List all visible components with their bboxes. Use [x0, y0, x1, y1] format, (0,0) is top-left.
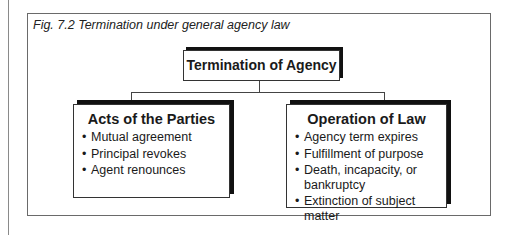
connector-left-down: [131, 92, 132, 102]
branch-acts-of-the-parties: Acts of the Parties •Mutual agreement •P…: [73, 104, 230, 198]
branch-item-list: •Mutual agreement •Principal revokes •Ag…: [74, 130, 229, 178]
list-item-text: Mutual agreement: [91, 130, 192, 144]
list-item: •Mutual agreement: [82, 130, 229, 145]
list-item: •Principal revokes: [82, 147, 229, 162]
list-item: •Fulfillment of purpose: [295, 147, 446, 162]
bullet-icon: •: [295, 147, 299, 162]
branch-item-list: •Agency term expires •Fulfillment of pur…: [287, 130, 446, 223]
root-node-termination-of-agency: Termination of Agency: [183, 50, 340, 81]
list-item-text: Agency term expires: [304, 130, 418, 144]
bullet-icon: •: [295, 130, 299, 145]
figure-caption: Fig. 7.2 Termination under general agenc…: [33, 18, 290, 32]
list-item: •Agency term expires: [295, 130, 446, 145]
connector-horizontal: [131, 92, 384, 93]
bullet-icon: •: [295, 163, 299, 178]
bullet-icon: •: [82, 163, 86, 178]
list-item-text: Extinction of subject matter: [304, 194, 415, 223]
bullet-icon: •: [82, 147, 86, 162]
list-item-text: Principal revokes: [91, 147, 186, 161]
bullet-icon: •: [82, 130, 86, 145]
branch-title: Operation of Law: [287, 111, 446, 127]
list-item: •Extinction of subject matter: [295, 194, 446, 223]
bullet-icon: •: [295, 194, 299, 209]
branch-operation-of-law: Operation of Law •Agency term expires •F…: [286, 104, 447, 208]
connector-right-down: [384, 92, 385, 102]
page-margin-rule: [8, 0, 9, 235]
list-item-text: Death, incapacity, or bankruptcy: [304, 163, 417, 192]
branch-title: Acts of the Parties: [74, 111, 229, 127]
list-item-text: Fulfillment of purpose: [304, 147, 424, 161]
connector-root-down: [259, 81, 260, 92]
list-item-text: Agent renounces: [91, 163, 186, 177]
list-item: •Death, incapacity, or bankruptcy: [295, 163, 424, 192]
list-item: •Agent renounces: [82, 163, 229, 178]
